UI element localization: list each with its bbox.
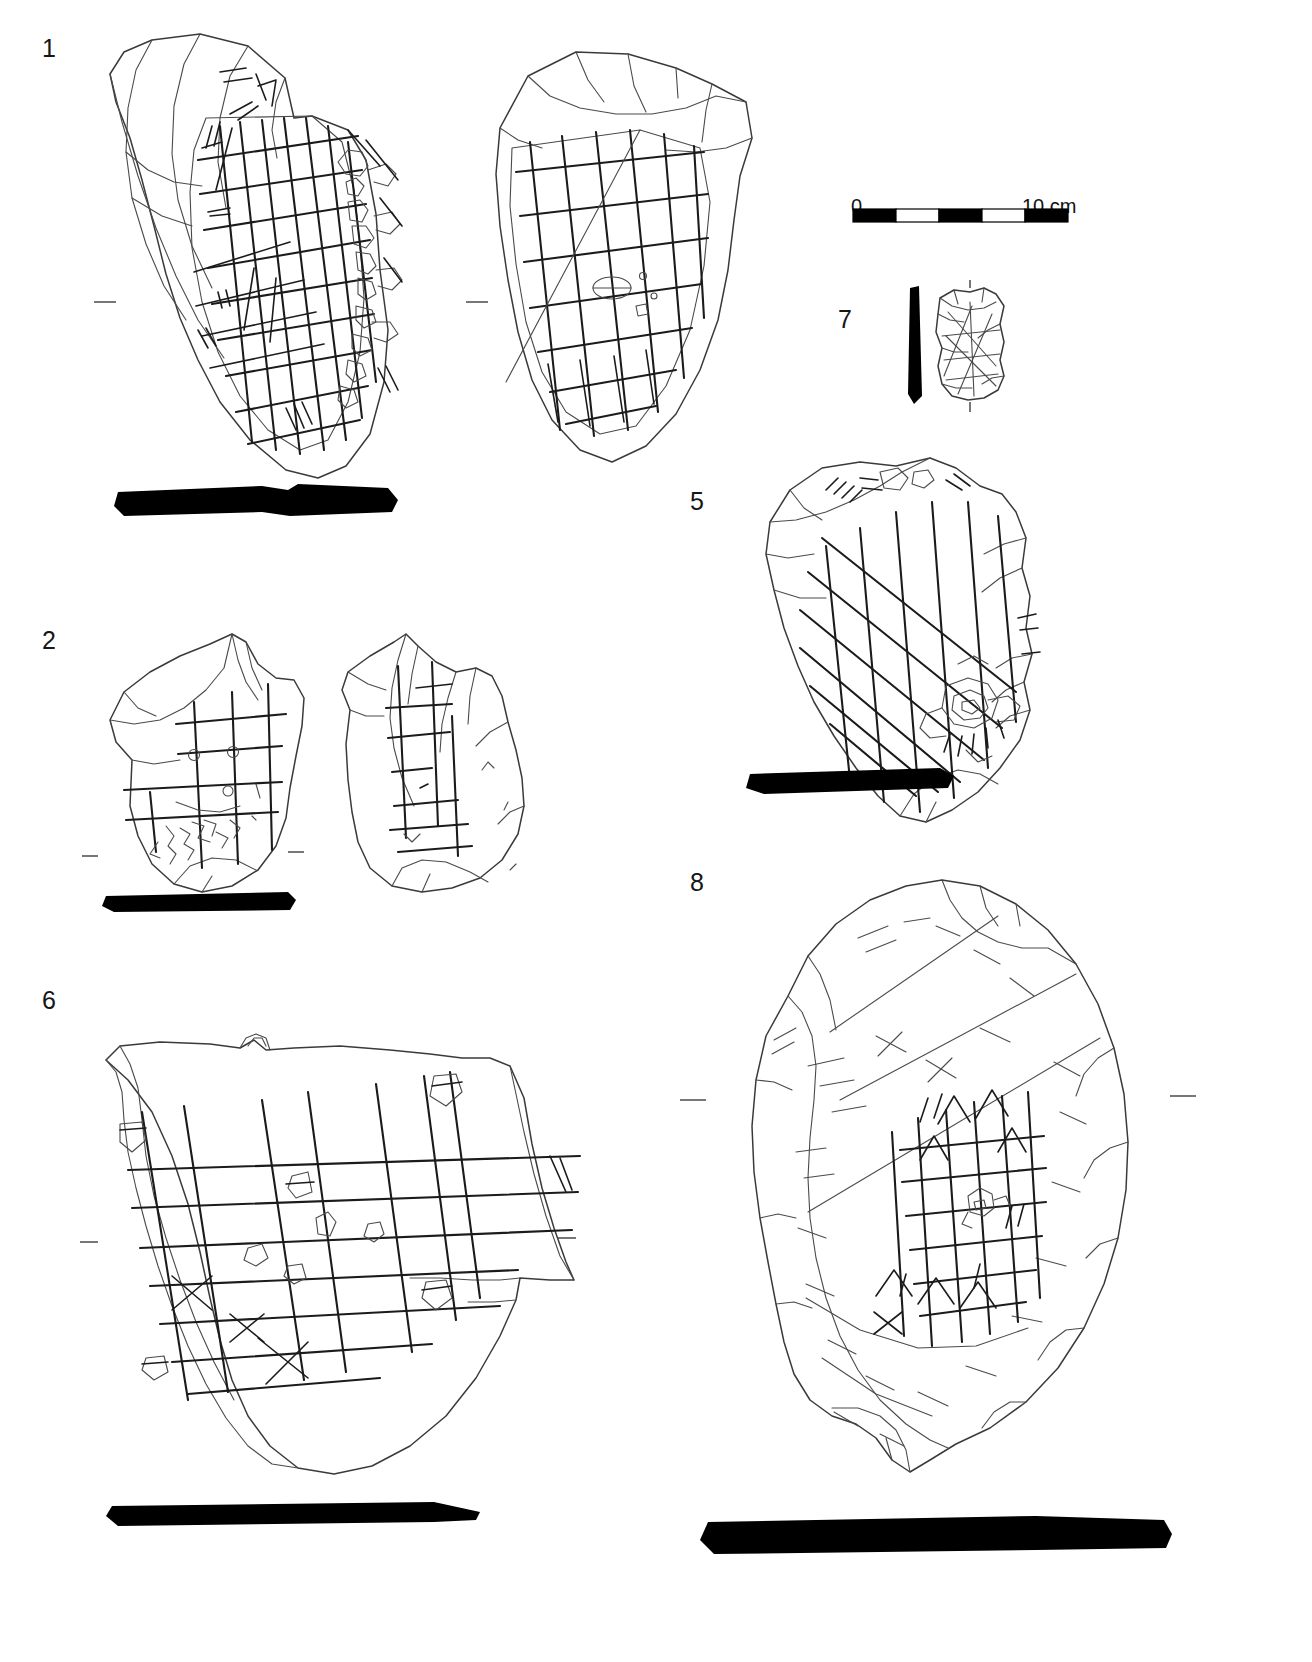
scale-bar	[852, 205, 1072, 229]
figure-label-1: 1	[42, 36, 56, 61]
illustration-plate: 1 2 5 6 7 8 0 10 cm	[0, 0, 1312, 1662]
figure-2-profile-bar	[100, 886, 300, 918]
figure-8-profile-bar	[696, 1510, 1176, 1562]
figure-6-drawing	[80, 980, 590, 1480]
figure-2-view-obverse	[82, 634, 304, 892]
figure-7-drawing	[900, 280, 1030, 420]
figure-1-profile-bar	[112, 478, 402, 526]
figure-2-view-reverse	[342, 634, 524, 892]
figure-1-view-reverse	[466, 52, 752, 462]
figure-8-drawing	[680, 860, 1200, 1500]
figure-2-drawing	[80, 620, 550, 910]
figure-7-profile-bar	[908, 286, 922, 404]
figure-label-2: 2	[42, 628, 56, 653]
figure-label-6: 6	[42, 988, 56, 1013]
figure-5-profile-bar	[740, 760, 960, 800]
figure-6-profile-bar	[104, 1496, 494, 1536]
figure-1-drawing	[80, 30, 760, 510]
figure-label-7: 7	[838, 307, 852, 332]
figure-1-view-obverse	[94, 34, 402, 478]
